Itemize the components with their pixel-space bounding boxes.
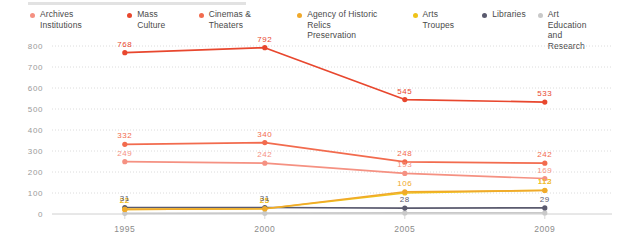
legend-dot-icon — [538, 13, 543, 18]
legend-item[interactable]: Cinemas & Theaters — [199, 9, 286, 30]
legend-dot-icon — [482, 13, 487, 18]
series-line — [125, 143, 545, 164]
data-point-label: 340 — [257, 130, 272, 139]
y-axis-tick-label: 100 — [28, 189, 43, 198]
legend-dot-icon — [127, 13, 132, 18]
data-point-label: 31 — [120, 194, 130, 203]
data-point-label: 248 — [397, 149, 412, 158]
x-axis-tick-label: 2005 — [394, 224, 415, 234]
data-point-label: 29 — [540, 195, 550, 204]
y-axis-tick-label: 800 — [28, 42, 43, 51]
y-axis-tick-label: 600 — [28, 84, 43, 93]
data-point[interactable] — [542, 188, 547, 193]
x-axis-tick-label: 2009 — [534, 224, 555, 234]
legend-item[interactable]: Libraries — [482, 9, 526, 20]
plot-area: 0100200300400500600700800199520002005200… — [0, 34, 618, 248]
y-axis-tick-label: 700 — [28, 63, 43, 72]
legend-item-label: Archives Institutions — [40, 9, 115, 30]
x-axis-tick-label: 2000 — [254, 224, 275, 234]
data-point[interactable] — [262, 45, 267, 50]
data-point[interactable] — [542, 99, 547, 104]
y-axis-tick-label: 400 — [28, 126, 43, 135]
data-point-label: 113 — [538, 177, 552, 186]
data-point[interactable] — [262, 206, 267, 211]
y-axis-tick-label: 200 — [28, 168, 43, 177]
data-point[interactable] — [402, 171, 407, 176]
header-rule — [28, 2, 246, 5]
series-line — [125, 207, 545, 208]
y-axis-tick-label: 0 — [38, 210, 43, 219]
data-point-label: 242 — [257, 150, 272, 159]
legend-dot-icon — [413, 13, 418, 18]
data-point[interactable] — [402, 206, 407, 211]
line-chart: Archives InstitutionsMass CultureCinemas… — [0, 0, 618, 248]
data-point[interactable] — [122, 159, 127, 164]
data-point[interactable] — [402, 210, 407, 215]
data-point[interactable] — [542, 210, 547, 215]
legend-dot-icon — [30, 13, 35, 18]
legend-item-label: Cinemas & Theaters — [209, 9, 286, 30]
data-point-label: 31 — [260, 194, 270, 203]
legend-item[interactable]: Arts Troupes — [413, 9, 471, 30]
series-line — [125, 48, 545, 102]
legend-dot-icon — [297, 13, 302, 18]
legend-item[interactable]: Mass Culture — [127, 9, 187, 30]
plot-svg: 0100200300400500600700800199520002005200… — [0, 34, 618, 248]
legend-item[interactable]: Archives Institutions — [30, 9, 115, 30]
data-point[interactable] — [402, 97, 407, 102]
series-line — [125, 162, 545, 179]
data-point-label: 193 — [397, 160, 412, 169]
legend-dot-icon — [199, 13, 204, 18]
legend-item-label: Mass Culture — [137, 9, 187, 30]
x-axis-tick-label: 1995 — [114, 224, 135, 234]
data-point-label: 28 — [400, 195, 410, 204]
data-point[interactable] — [262, 161, 267, 166]
legend-item-label: Arts Troupes — [423, 9, 471, 30]
data-point[interactable] — [402, 189, 407, 194]
data-point-label: 249 — [117, 149, 132, 158]
data-point[interactable] — [122, 50, 127, 55]
data-point-label: 792 — [257, 35, 272, 44]
data-point[interactable] — [542, 205, 547, 210]
data-point[interactable] — [262, 140, 267, 145]
series-mass-culture — [122, 45, 547, 105]
data-point[interactable] — [122, 207, 127, 212]
data-point[interactable] — [122, 142, 127, 147]
data-point-label: 545 — [397, 87, 412, 96]
data-point-label: 332 — [117, 131, 132, 140]
data-point-label: 768 — [117, 40, 132, 49]
data-point-label: 106 — [397, 179, 412, 188]
series-art-education-and-research — [122, 210, 547, 216]
y-axis-tick-label: 300 — [28, 147, 43, 156]
legend-item-label: Libraries — [492, 9, 526, 20]
data-point-label: 169 — [537, 166, 552, 175]
data-point-label: 533 — [537, 89, 552, 98]
y-axis-tick-label: 500 — [28, 105, 43, 114]
data-point-label: 242 — [537, 150, 552, 159]
